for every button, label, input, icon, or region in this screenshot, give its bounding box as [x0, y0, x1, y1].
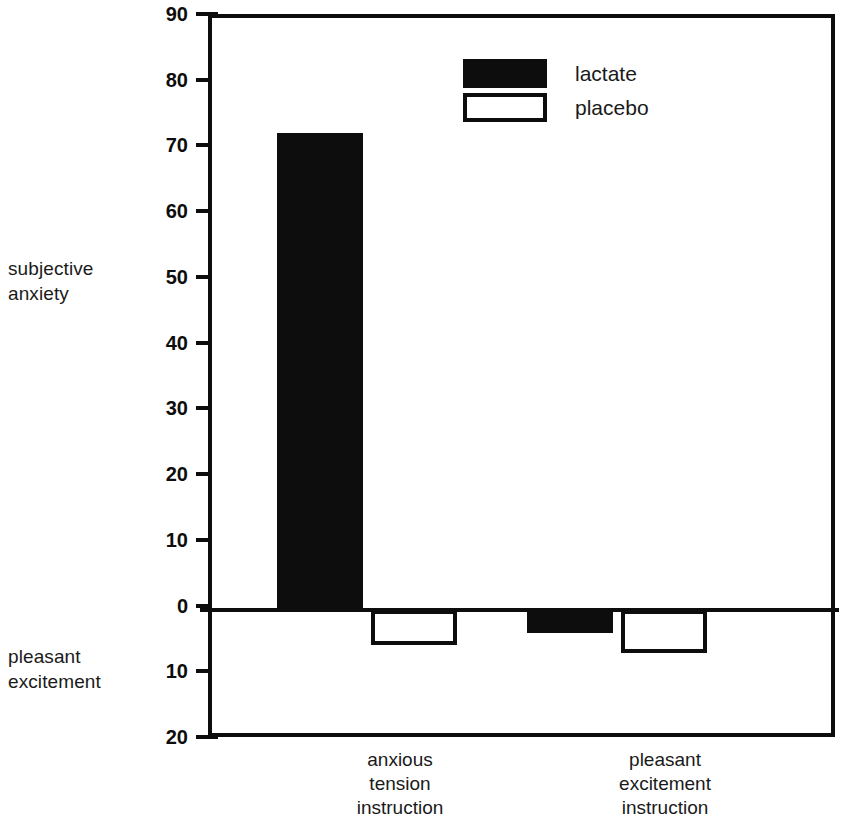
y-axis-tick-label: 70	[140, 135, 188, 155]
bar-lactate-0	[277, 133, 363, 610]
plot-inner	[212, 18, 831, 733]
y-axis-tick-label: 60	[140, 201, 188, 221]
legend-item-placebo: placebo	[463, 90, 649, 124]
bar-placebo-0	[371, 610, 457, 645]
legend: lactateplacebo	[463, 56, 649, 124]
axis-direction-label-negative: pleasant excitement	[8, 644, 101, 694]
axis-direction-label-positive: subjective anxiety	[8, 256, 94, 306]
bar-placebo-1	[621, 610, 707, 653]
y-axis-tick-label: 20	[140, 727, 188, 747]
bar-chart-figure: subjective anxiety pleasant excitement 9…	[0, 0, 850, 817]
y-axis-tick-label: 50	[140, 267, 188, 287]
y-axis-tick-label: 90	[140, 4, 188, 24]
legend-item-lactate: lactate	[463, 56, 649, 90]
y-axis-tick-label: 0	[140, 596, 188, 616]
x-axis-category-label-0: anxious tension instruction	[300, 748, 500, 817]
x-axis-category-label-1: pleasant excitement instruction	[555, 748, 775, 817]
y-axis-tick-label: 10	[140, 530, 188, 550]
y-axis-tick-label: 80	[140, 70, 188, 90]
y-axis-tick-label: 40	[140, 333, 188, 353]
y-axis-tick-label: 30	[140, 398, 188, 418]
legend-label-lactate: lactate	[575, 63, 637, 84]
legend-swatch-lactate	[463, 59, 547, 88]
y-axis-tick-labels: 90807060504030201001020	[140, 0, 188, 817]
legend-swatch-placebo	[463, 93, 547, 122]
bar-lactate-1	[527, 610, 613, 633]
y-axis-tick-label: 20	[140, 464, 188, 484]
legend-label-placebo: placebo	[575, 97, 649, 118]
y-axis-tick-label: 10	[140, 661, 188, 681]
